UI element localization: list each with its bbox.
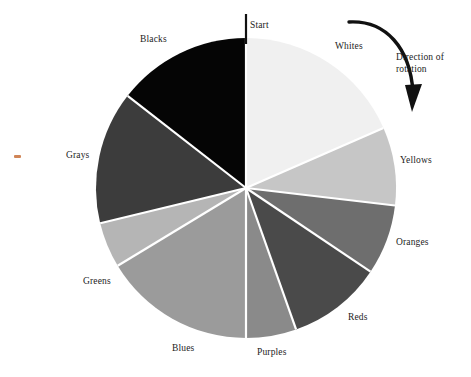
slice-label-reds: Reds (348, 312, 368, 324)
rotation-arrow-head-icon (405, 84, 422, 112)
slice-label-oranges: Oranges (396, 237, 429, 249)
start-label: Start (250, 20, 269, 32)
slice-label-blues: Blues (172, 343, 194, 355)
slice-label-whites: Whites (335, 41, 363, 53)
slice-label-yellows: Yellows (400, 155, 432, 167)
pie-chart-figure: Start Whites Yellows Oranges Reds Purple… (0, 0, 471, 377)
slice-label-grays: Grays (66, 150, 89, 162)
rotation-direction-note: Direction of rotation (396, 52, 460, 75)
rotation-direction-line2: rotation (396, 64, 427, 74)
slice-label-purples: Purples (257, 347, 287, 359)
slice-label-greens: Greens (83, 276, 111, 288)
slice-label-blacks: Blacks (140, 34, 167, 46)
rotation-direction-line1: Direction of (396, 52, 444, 62)
stray-mark (14, 155, 21, 158)
